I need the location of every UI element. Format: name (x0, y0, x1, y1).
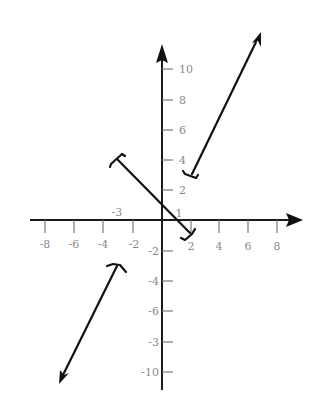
ray-lower (59, 264, 126, 384)
x-tick-label: -4 (98, 238, 109, 251)
x-axis (30, 213, 303, 227)
x-tick-label: -6 (69, 238, 80, 251)
y-tick-label: 6 (179, 124, 186, 137)
bracket-endpoint-icon (183, 171, 198, 178)
y-tick-label: -2 (148, 245, 159, 258)
y-tick-label: 10 (179, 63, 193, 76)
x-tick-label: 6 (245, 240, 252, 253)
x-tick-label: -8 (40, 238, 51, 251)
annotation-neg3: -3 (112, 206, 123, 219)
x-tick-label: 2 (188, 240, 195, 253)
y-tick-label: 2 (179, 184, 186, 197)
x-tick-label: 4 (216, 240, 223, 253)
ray-upper (183, 32, 261, 178)
x-tick-label: -2 (129, 238, 140, 251)
y-tick-label: -4 (148, 275, 159, 288)
y-tick-label: -10 (141, 366, 159, 379)
x-tick-label: 8 (274, 240, 281, 253)
y-tick-label: -3 (148, 336, 159, 349)
y-tick-label: -6 (148, 305, 159, 318)
y-tick-label: 4 (179, 154, 186, 167)
y-tick-label: 8 (179, 94, 186, 107)
x-tick-labels: -8 -6 -4 -2 2 4 6 8 (40, 238, 281, 253)
ray-arrow-icon (252, 32, 261, 47)
coordinate-graph: -8 -6 -4 -2 2 4 6 8 10 8 6 4 2 -2 -4 -6 … (0, 0, 320, 407)
